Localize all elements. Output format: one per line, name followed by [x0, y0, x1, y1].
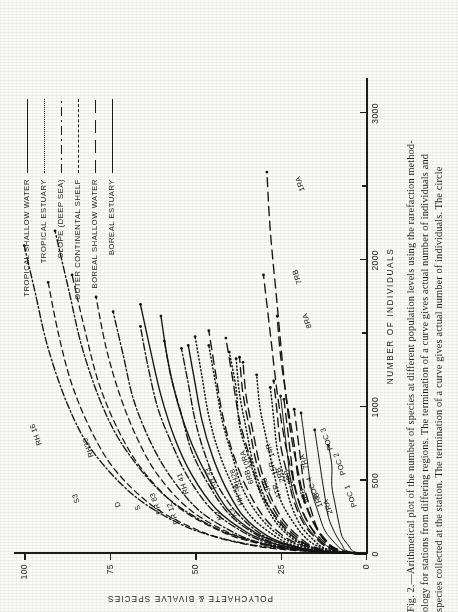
legend-line-sample — [39, 99, 49, 173]
legend-label: OUTER CONTINENTAL SHELF — [73, 173, 82, 312]
legend-label: BOREAL ESTUARY — [107, 173, 116, 312]
curve-terminus-rh-41 — [139, 303, 142, 306]
y-tick-label: 50 — [190, 564, 200, 574]
curve-terminus-10ra — [207, 329, 210, 332]
legend-item-thin: BOREAL ESTUARY — [103, 97, 120, 312]
legend: TROPICAL SHALLOW WATERTROPICAL ESTUARYSL… — [18, 97, 120, 312]
figure-caption-line-3: species collected at the station. The te… — [432, 0, 446, 612]
curve-14r — [226, 338, 366, 554]
legend-line-sample — [22, 99, 32, 173]
legend-label: TROPICAL ESTUARY — [39, 173, 48, 312]
legend-line-sample — [107, 99, 117, 173]
curve-terminus-1rb — [283, 398, 286, 401]
legend-line-sample — [73, 99, 83, 173]
x-tick-label: 1000 — [370, 397, 380, 418]
y-tick — [195, 553, 196, 560]
curve-terminus-poc-2 — [313, 428, 316, 431]
curve-terminus-rh-33 — [160, 315, 163, 318]
x-tick-label: 500 — [370, 473, 380, 488]
legend-line-sample — [90, 99, 100, 173]
x-axis-line — [366, 78, 368, 554]
figure-caption-line-1: Fig. 2.—Arithmetical plot of the number … — [404, 0, 418, 612]
legend-line-sample — [56, 99, 66, 173]
curve-10ra — [209, 331, 366, 554]
curve-terminus-4tr — [235, 357, 238, 360]
y-tick-label: 0 — [361, 564, 371, 569]
y-tick — [281, 553, 282, 560]
y-tick-label: 25 — [276, 564, 286, 574]
y-tick-label: 100 — [19, 564, 29, 579]
y-axis-title: POLYCHAETE & BIVALVE SPECIES — [107, 594, 273, 603]
curve-terminus-6rb — [207, 344, 210, 347]
curve-terminus-14r — [224, 337, 227, 340]
x-tick-label: 2000 — [370, 250, 380, 271]
legend-item-solid: TROPICAL SHALLOW WATER — [18, 97, 35, 312]
legend-item-dotdash: SLOPE (DEEP SEA) — [52, 97, 69, 312]
curve-terminus-12rb — [255, 373, 258, 376]
curve-terminus-3rb — [228, 351, 231, 354]
figure-2: 0500100020003000 0255075100 NUMBER OF IN… — [0, 0, 458, 612]
curve-terminus-7ra — [272, 380, 275, 383]
curve-terminus-rh28 — [194, 335, 197, 338]
y-tick-label: 75 — [105, 564, 115, 574]
scanned-page: 0500100020003000 0255075100 NUMBER OF IN… — [0, 0, 458, 612]
legend-item-longdash: BOREAL SHALLOW WATER — [86, 97, 103, 312]
curve-terminus-2rb — [242, 361, 245, 364]
curve-terminus-2ra — [293, 408, 296, 411]
rotated-figure-container: 0500100020003000 0255075100 NUMBER OF IN… — [0, 0, 458, 612]
legend-label: TROPICAL SHALLOW WATER — [22, 173, 31, 312]
legend-label: SLOPE (DEEP SEA) — [56, 173, 65, 312]
legend-item-dotted: TROPICAL ESTUARY — [35, 97, 52, 312]
curve-terminus-1ra — [265, 171, 268, 174]
figure-caption-line-2: ology for stations from differing region… — [418, 0, 432, 612]
curve-terminus-k3 — [180, 347, 183, 350]
curve-terminus-9rb — [269, 386, 272, 389]
curve-terminus-hh-51 — [187, 344, 190, 347]
curve-terminus-7rb — [262, 274, 265, 277]
curve-terminus-poc-4 — [279, 395, 282, 398]
curve-terminus-poc-3 — [300, 412, 303, 415]
x-tick-label: 3000 — [370, 103, 380, 124]
legend-label: BOREAL SHALLOW WATER — [90, 173, 99, 312]
curve-terminus-15r — [238, 356, 241, 359]
x-tick-label: 0 — [370, 551, 380, 556]
curve-terminus-dr-12 — [139, 325, 142, 328]
x-axis-title: NUMBER OF INDIVIDUALS — [386, 248, 395, 384]
y-tick — [24, 553, 25, 560]
y-tick — [110, 553, 111, 560]
curve-rh-33 — [161, 316, 366, 554]
legend-item-dashed: OUTER CONTINENTAL SHELF — [69, 97, 86, 312]
